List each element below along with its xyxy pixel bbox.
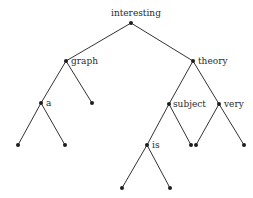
edge-very-very-leaf-right <box>219 104 244 145</box>
edge-a-a-leaf-left <box>18 103 41 145</box>
label-a: a <box>46 99 51 108</box>
node-very-leaf-left <box>194 143 198 147</box>
edge-is-is-leaf-left <box>122 145 147 188</box>
node-subject <box>167 102 171 106</box>
node-is-leaf-left <box>120 186 124 190</box>
label-graph: graph <box>71 57 98 66</box>
tree-diagram <box>0 0 253 198</box>
label-is: is <box>152 141 160 150</box>
node-graph <box>64 59 68 63</box>
node-subject-leaf <box>189 143 193 147</box>
edge-graph-graph-leaf <box>66 61 92 103</box>
label-very: very <box>224 100 244 109</box>
node-interesting <box>129 21 133 25</box>
node-theory <box>191 59 195 63</box>
edge-is-is-leaf-right <box>147 145 170 188</box>
edge-subject-is <box>147 104 169 145</box>
edge-theory-very <box>193 61 219 104</box>
tree-edges <box>18 23 244 188</box>
node-very <box>217 102 221 106</box>
node-graph-leaf <box>90 101 94 105</box>
node-a <box>39 101 43 105</box>
edge-graph-a <box>41 61 66 103</box>
edge-interesting-theory <box>131 23 193 61</box>
label-theory: theory <box>198 57 228 66</box>
label-interesting: interesting <box>111 9 161 18</box>
edge-a-a-leaf-right <box>41 103 65 145</box>
edge-very-very-leaf-left <box>196 104 219 145</box>
node-is <box>145 143 149 147</box>
node-a-leaf-right <box>63 143 67 147</box>
label-subject: subject <box>173 100 206 109</box>
node-a-leaf-left <box>16 143 20 147</box>
edge-subject-subject-leaf <box>169 104 191 145</box>
node-very-leaf-right <box>242 143 246 147</box>
node-is-leaf-right <box>168 186 172 190</box>
edge-theory-subject <box>169 61 193 104</box>
